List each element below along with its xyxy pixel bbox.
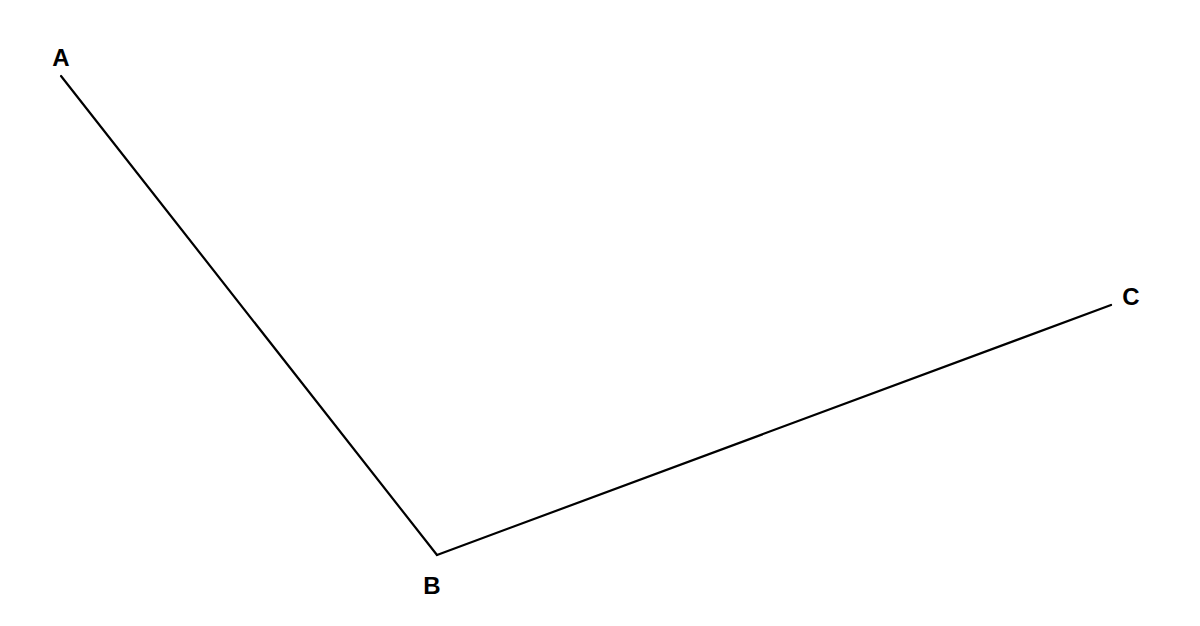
segment-ab xyxy=(61,76,437,555)
angle-diagram: A B C xyxy=(0,0,1200,626)
segment-bc xyxy=(437,305,1111,555)
point-label-c: C xyxy=(1122,283,1139,310)
point-label-b: B xyxy=(423,572,440,599)
point-label-a: A xyxy=(52,44,69,71)
